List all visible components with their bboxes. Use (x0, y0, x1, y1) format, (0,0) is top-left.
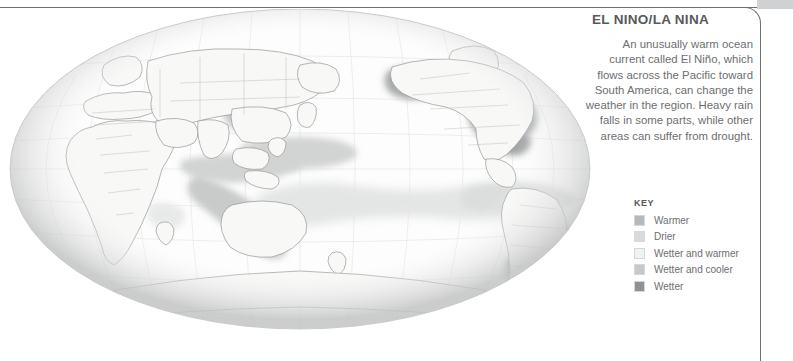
key-item-drier: Drier (634, 230, 754, 244)
page-title: EL NINO/LA NINA (585, 12, 753, 28)
key-swatch-warmer (634, 215, 645, 226)
top-right-gray-band (757, 0, 793, 9)
key-label-drier: Drier (654, 231, 676, 242)
key-label-wetter-and-warmer: Wetter and warmer (654, 248, 739, 259)
key-item-wetter-and-warmer: Wetter and warmer (634, 246, 754, 260)
key-title: KEY (634, 198, 754, 208)
key-item-wetter-and-cooler: Wetter and cooler (634, 263, 754, 277)
frame-right-rule (760, 24, 761, 361)
key-swatch-wetter-and-cooler (634, 264, 645, 275)
map-key: KEY Warmer Drier Wetter and warmer Wette… (634, 198, 754, 296)
key-swatch-wetter-and-warmer (634, 248, 645, 259)
key-item-wetter: Wetter (634, 279, 754, 293)
key-label-wetter-and-cooler: Wetter and cooler (654, 264, 733, 275)
globe-graphic (0, 9, 600, 361)
key-swatch-drier (634, 231, 645, 242)
info-panel: EL NINO/LA NINA An unusually warm ocean … (585, 12, 753, 144)
page-root: EL NINO/LA NINA An unusually warm ocean … (0, 0, 793, 361)
globe-limb-shading (10, 9, 590, 329)
key-item-warmer: Warmer (634, 213, 754, 227)
globe-svg (0, 9, 600, 361)
frame-top-rule (0, 7, 757, 8)
world-map (0, 9, 600, 361)
key-label-warmer: Warmer (654, 215, 689, 226)
key-swatch-wetter (634, 281, 645, 292)
description-text: An unusually warm ocean current called E… (585, 37, 753, 144)
key-label-wetter: Wetter (654, 281, 683, 292)
